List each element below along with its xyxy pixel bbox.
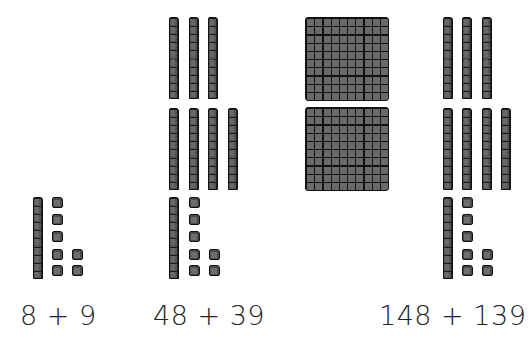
unit-cube <box>52 197 63 208</box>
unit-cube <box>72 265 83 276</box>
ten-rod <box>169 17 179 99</box>
expression-label: 48 + 39 <box>153 300 265 331</box>
unit-cube <box>482 249 493 260</box>
unit-cube <box>462 249 473 260</box>
hundred-flat <box>305 107 389 191</box>
ten-rod <box>189 108 199 190</box>
unit-cube <box>209 249 220 260</box>
unit-cube <box>52 265 63 276</box>
unit-cube <box>189 197 200 208</box>
expression-label: 148 + 139 <box>379 300 526 331</box>
expression-label: 8 + 9 <box>20 300 97 331</box>
ten-rod <box>443 108 453 190</box>
unit-cube <box>189 214 200 225</box>
ten-rod <box>228 108 238 190</box>
unit-cube <box>189 265 200 276</box>
ten-rod <box>501 108 511 190</box>
unit-cube <box>52 214 63 225</box>
unit-cube <box>462 265 473 276</box>
ten-rod <box>208 17 218 99</box>
ten-rod <box>482 108 492 190</box>
ten-rod <box>189 17 199 99</box>
unit-cube <box>52 249 63 260</box>
unit-cube <box>462 231 473 242</box>
ten-rod <box>208 108 218 190</box>
unit-cube <box>482 265 493 276</box>
unit-cube <box>189 249 200 260</box>
ten-rod <box>33 197 43 279</box>
ten-rod <box>462 108 472 190</box>
unit-cube <box>52 231 63 242</box>
ten-rod <box>482 17 492 99</box>
hundred-flat <box>305 17 389 101</box>
unit-cube <box>462 197 473 208</box>
unit-cube <box>189 231 200 242</box>
ten-rod <box>443 17 453 99</box>
ten-rod <box>462 17 472 99</box>
unit-cube <box>462 214 473 225</box>
unit-cube <box>209 265 220 276</box>
ten-rod <box>443 197 453 279</box>
ten-rod <box>169 197 179 279</box>
ten-rod <box>169 108 179 190</box>
unit-cube <box>72 249 83 260</box>
